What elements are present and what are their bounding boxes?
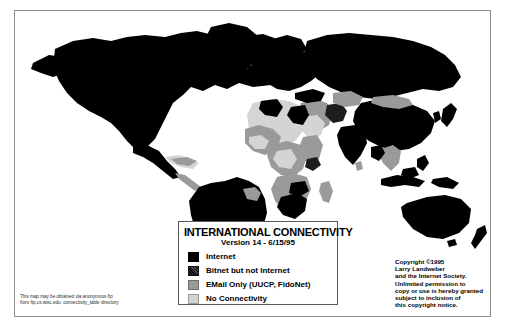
legend-item-no-connectivity: No Connectivity: [184, 292, 332, 305]
legend-version: Version 14 - 6/15/95: [184, 238, 332, 248]
ftp-note-line-2: from ftp.cs.wisc.edu, connectivity_table…: [20, 300, 155, 306]
copyright-notice: Copyright ©1995 Larry Landweber and the …: [395, 258, 490, 308]
legend-item-email-only: EMail Only (UUCP, FidoNet): [184, 278, 332, 291]
copyright-line-5: copy or use is hereby granted: [395, 287, 490, 294]
legend-box: INTERNATIONAL CONNECTIVITY Version 14 - …: [178, 221, 338, 305]
copyright-line-7: this copyright notice.: [395, 301, 490, 308]
copyright-line-6: subject to inclusion of: [395, 294, 490, 301]
copyright-line-4: Unlimited permission to: [395, 280, 490, 287]
legend-label-email-only: EMail Only (UUCP, FidoNet): [206, 280, 310, 290]
legend-label-bitnet: Bitnet but not Internet: [206, 266, 290, 276]
copyright-line-2: Larry Landweber: [395, 265, 490, 272]
legend-label-no-connectivity: No Connectivity: [206, 294, 267, 304]
legend-title: INTERNATIONAL CONNECTIVITY: [184, 226, 332, 238]
legend-label-internet: Internet: [206, 252, 235, 262]
legend-swatch-no-connectivity: [188, 294, 199, 304]
legend-swatch-bitnet: [188, 266, 199, 276]
ftp-availability-note: This map may be obtained via anonymous f…: [20, 294, 155, 306]
map-page: INTERNATIONAL CONNECTIVITY Version 14 - …: [0, 0, 506, 332]
copyright-line-3: and the Internet Society.: [395, 272, 490, 279]
legend-item-internet: Internet: [184, 250, 332, 263]
legend-items: Internet Bitnet but not Internet EMail O…: [184, 250, 332, 305]
legend-swatch-internet: [188, 252, 199, 262]
legend-swatch-email-only: [188, 280, 199, 290]
copyright-line-1: Copyright ©1995: [395, 258, 490, 265]
legend-item-bitnet: Bitnet but not Internet: [184, 264, 332, 277]
